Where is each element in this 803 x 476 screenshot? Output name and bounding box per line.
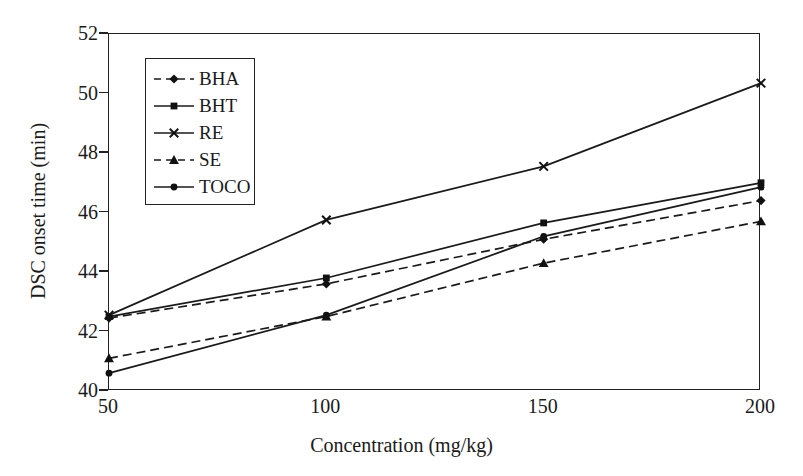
legend-label: SE — [199, 150, 221, 169]
legend: BHABHTRESETOCO — [145, 58, 255, 205]
legend-item-re: RE — [146, 119, 254, 146]
data-point-circle — [171, 183, 178, 190]
legend-item-bha: BHA — [146, 65, 254, 92]
data-point-diamond — [169, 74, 178, 83]
legend-item-se: SE — [146, 146, 254, 173]
x-tick-label: 150 — [503, 396, 583, 416]
data-point-circle — [540, 233, 547, 240]
x-tick-label: 100 — [285, 396, 365, 416]
data-point-circle — [758, 184, 765, 191]
y-tick-label: 48 — [52, 142, 98, 162]
series-line — [109, 221, 761, 358]
y-tick-label: 42 — [52, 321, 98, 341]
series-line — [109, 187, 761, 373]
data-point-square — [540, 220, 547, 227]
y-tick-mark — [99, 389, 108, 391]
x-axis-title: Concentration (mg/kg) — [0, 434, 803, 456]
series-line — [109, 201, 761, 319]
y-tick-label: 52 — [52, 23, 98, 43]
legend-label: RE — [199, 123, 223, 142]
data-point-circle — [323, 312, 330, 319]
legend-swatch-circle-icon — [153, 179, 195, 195]
legend-swatch-diamond-icon — [153, 71, 195, 87]
data-point-square — [323, 275, 330, 282]
y-tick-mark — [99, 151, 108, 153]
legend-swatch-triangle-icon — [153, 152, 195, 168]
data-point-square — [171, 102, 178, 109]
legend-item-bht: BHT — [146, 92, 254, 119]
x-tick-label: 50 — [68, 396, 148, 416]
data-point-circle — [106, 370, 113, 377]
series-se — [104, 216, 766, 362]
y-tick-mark — [99, 270, 108, 272]
legend-label: BHA — [199, 69, 239, 88]
legend-item-toco: TOCO — [146, 173, 254, 200]
x-tick-label: 200 — [720, 396, 800, 416]
series-toco — [106, 184, 765, 377]
y-tick-mark — [99, 32, 108, 34]
y-tick-mark — [99, 92, 108, 94]
y-tick-mark — [99, 211, 108, 213]
y-tick-mark — [99, 330, 108, 332]
y-tick-label: 44 — [52, 261, 98, 281]
legend-swatch-square-icon — [153, 98, 195, 114]
legend-label: BHT — [199, 96, 237, 115]
y-tick-label: 50 — [52, 83, 98, 103]
legend-label: TOCO — [199, 177, 250, 196]
legend-swatch-x-icon — [153, 125, 195, 141]
series-bha — [104, 196, 765, 323]
y-axis-title: DSC onset time (min) — [27, 61, 49, 361]
y-tick-label: 46 — [52, 202, 98, 222]
chart-figure: 40424446485052 50100150200 BHABHTRESETOC… — [0, 0, 803, 476]
